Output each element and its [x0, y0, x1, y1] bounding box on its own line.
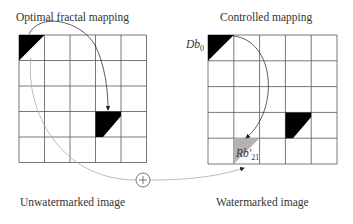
embedding-path-out — [150, 168, 244, 180]
caption-watermarked-image: Watermarked image — [216, 196, 309, 208]
mapped-block-right — [285, 112, 311, 138]
left-grid — [19, 35, 147, 163]
domain-block-label: Db0 — [186, 38, 204, 53]
range-block-text: Rb′ — [236, 147, 251, 159]
optimal-mapping-arrow — [29, 21, 108, 110]
domain-block-left — [19, 35, 45, 61]
caption-unwatermarked-image: Unwatermarked image — [20, 196, 125, 208]
embedding-path — [30, 58, 136, 180]
domain-block-subscript: 0 — [200, 44, 204, 53]
range-block-label: Rb′21 — [236, 147, 259, 162]
domain-block-text: Db — [186, 38, 200, 50]
range-block-subscript: 21 — [251, 153, 259, 162]
title-optimal-fractal-mapping: Optimal fractal mapping — [16, 11, 129, 23]
right-grid — [208, 35, 337, 164]
mapped-block-left — [96, 112, 122, 138]
title-controlled-mapping: Controlled mapping — [220, 11, 312, 23]
diagram-canvas — [0, 0, 353, 224]
domain-block-right — [208, 35, 234, 61]
combine-icon — [136, 173, 150, 187]
